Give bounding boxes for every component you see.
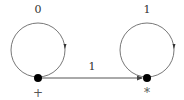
loop-left-arrow-icon [64,44,67,49]
diagram-canvas: 0 1 1 + * [0,0,184,100]
loop-left-label: 0 [35,3,42,16]
loop-right [120,23,176,77]
node-right [143,74,151,82]
loop-right-arrow-icon [173,44,176,49]
node-left [34,74,42,82]
edge-label: 1 [89,60,96,73]
node-right-label: * [144,86,150,100]
loop-left [11,23,67,77]
node-left-label: + [33,86,43,100]
loop-right-label: 1 [144,3,151,16]
